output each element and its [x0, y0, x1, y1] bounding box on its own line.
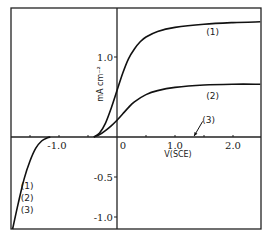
series-annotation: (2): [206, 91, 219, 101]
annotations: (1)(2)(3)(1)(2)(3): [21, 27, 219, 215]
series-annotation: (2): [21, 193, 34, 203]
x-tick-label: 2.0: [225, 140, 241, 151]
y-tick-label: 1.0: [97, 52, 113, 63]
series-annotation: (3): [21, 205, 34, 215]
series-line-1: [94, 84, 260, 137]
y-axis-title: mA cm⁻²: [96, 66, 105, 101]
series-annotation: (1): [21, 181, 34, 191]
polarization-curve-chart: -1.001.02.0 1.0-0.5-1.0 (1)(2)(3)(1)(2)(…: [0, 0, 268, 235]
data-series: [13, 22, 261, 229]
series-line-0: [94, 22, 260, 137]
series-annotation: (3): [202, 115, 215, 125]
x-tick-label: -1.0: [47, 140, 66, 151]
y-tick-label: -0.5: [94, 172, 113, 183]
x-tick-label: 0: [120, 140, 126, 151]
plot-frame: [11, 8, 261, 229]
series-annotation: (1): [206, 27, 219, 37]
y-tick-label: -1.0: [94, 212, 113, 223]
x-axis-title: V(SCE): [164, 150, 191, 159]
